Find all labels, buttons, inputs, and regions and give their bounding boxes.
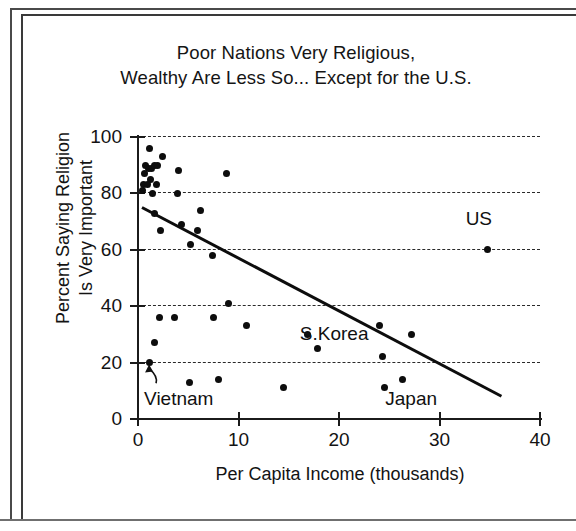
data-point (223, 170, 230, 177)
y-axis-title-line-1: Percent Saying Religion (52, 78, 75, 378)
x-axis-tick (137, 412, 139, 426)
trend-line (141, 206, 502, 398)
data-point (151, 339, 158, 346)
data-point (146, 145, 153, 152)
data-point (408, 331, 415, 338)
gridline-y (138, 136, 540, 137)
x-axis-tick (338, 412, 340, 426)
data-point (153, 181, 160, 188)
data-point (171, 314, 178, 321)
x-axis-tick (238, 412, 240, 426)
data-point (186, 379, 193, 386)
data-point (156, 314, 163, 321)
data-point (215, 376, 222, 383)
x-axis-title: Per Capita Income (thousands) (120, 464, 560, 485)
annotation-vietnam: Vietnam (144, 388, 213, 410)
data-point (154, 162, 161, 169)
gridline-y (138, 249, 540, 250)
data-point (149, 190, 156, 197)
x-axis-tick (439, 412, 441, 426)
data-point (314, 345, 321, 352)
data-point (146, 359, 153, 366)
y-axis-line (137, 135, 139, 421)
data-point (209, 252, 216, 259)
y-axis-tick (130, 305, 145, 307)
data-point (225, 300, 232, 307)
data-point (280, 384, 287, 391)
gridline-y (138, 305, 540, 306)
annotation-japan: Japan (385, 388, 437, 410)
x-axis-tick-label: 30 (410, 430, 470, 449)
chart-page: Poor Nations Very Religious, Wealthy Are… (0, 0, 576, 531)
y-axis-tick (130, 136, 145, 138)
annotation-s-korea: S.Korea (300, 323, 369, 345)
y-axis-tick-label: 0 (66, 409, 122, 428)
gridline-y (138, 192, 540, 193)
data-point (139, 187, 146, 194)
x-axis-tick (539, 412, 541, 426)
data-point (141, 170, 148, 177)
data-point (399, 376, 406, 383)
x-axis-tick-label: 0 (108, 430, 168, 449)
gridline-y (138, 362, 540, 363)
data-point (197, 207, 204, 214)
data-point (376, 322, 383, 329)
data-point (157, 227, 164, 234)
data-point (151, 210, 158, 217)
x-axis-tick-label: 20 (309, 430, 369, 449)
data-point (178, 221, 185, 228)
y-axis-tick (130, 249, 145, 251)
data-point (243, 322, 250, 329)
data-point (484, 246, 491, 253)
data-point (194, 227, 201, 234)
data-point (210, 314, 217, 321)
data-point (174, 190, 181, 197)
y-axis-title-line-2: Is Very Important (75, 78, 98, 378)
x-axis-tick-label: 40 (510, 430, 570, 449)
data-point (379, 353, 386, 360)
y-axis-tick (130, 362, 145, 364)
data-point (175, 167, 182, 174)
data-point (159, 153, 166, 160)
annotation-us: US (466, 208, 492, 230)
data-point (187, 241, 194, 248)
x-axis-tick-label: 10 (209, 430, 269, 449)
y-axis-title: Percent Saying Religion Is Very Importan… (52, 78, 98, 378)
